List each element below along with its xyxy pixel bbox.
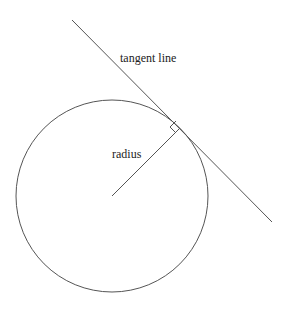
tangent-line-label: tangent line — [120, 51, 176, 65]
right-angle-marker — [170, 121, 176, 133]
tangent-diagram: tangent line radius — [0, 0, 287, 310]
radius-line — [112, 128, 180, 196]
radius-label: radius — [112, 147, 142, 161]
